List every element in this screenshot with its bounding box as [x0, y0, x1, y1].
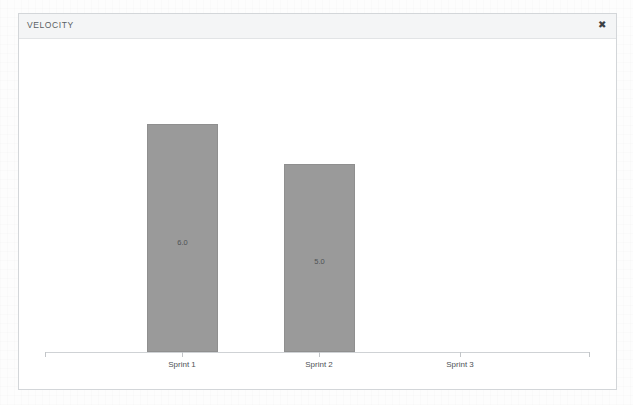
bar-value-label: 5.0: [285, 257, 354, 266]
panel-header: VELOCITY ✖: [19, 14, 616, 39]
velocity-panel: VELOCITY ✖ 6.0 5.0 Sprint 1 Sprint 2 Spr…: [18, 13, 617, 390]
panel-body: 6.0 5.0 Sprint 1 Sprint 2 Sprint 3: [19, 39, 616, 389]
bar-value-label: 6.0: [148, 238, 217, 247]
velocity-bar-chart: 6.0 5.0 Sprint 1 Sprint 2 Sprint 3: [19, 39, 616, 389]
x-axis-label-sprint-3: Sprint 3: [446, 360, 474, 369]
page-title: VELOCITY: [27, 20, 74, 30]
bar-sprint-2[interactable]: 5.0: [284, 164, 355, 352]
x-axis-label-sprint-2: Sprint 2: [305, 360, 333, 369]
bar-sprint-1[interactable]: 6.0: [147, 124, 218, 352]
x-axis-line: [45, 352, 589, 353]
axis-tick-sprint-3: [460, 352, 461, 357]
axis-tick-end: [589, 352, 590, 357]
axis-tick-sprint-1: [182, 352, 183, 357]
x-axis-label-sprint-1: Sprint 1: [168, 360, 196, 369]
axis-tick-start: [45, 352, 46, 357]
close-icon[interactable]: ✖: [595, 18, 609, 32]
axis-tick-sprint-2: [319, 352, 320, 357]
